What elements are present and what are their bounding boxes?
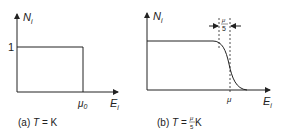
panel-a-caption: (a) T = K — [18, 117, 58, 128]
svg-text:μ: μ — [189, 115, 194, 121]
panel-b-fermi-curve — [147, 41, 247, 90]
panel-b-caption: (b) T = μ 5 K — [157, 115, 202, 130]
panel-b-x-label: Ei — [263, 95, 272, 109]
panel-b-width-label: μ 5 — [221, 17, 228, 32]
svg-text:μ: μ — [221, 17, 226, 23]
panel-a-x-label: Ei — [110, 97, 119, 111]
panel-b-y-label: Ni — [153, 10, 163, 24]
diagram-canvas: Ni 1 μ0 Ei (a) T = K μ 5 Ni μ Ei (b) T =… — [0, 0, 285, 137]
panel-a-y-tick-1: 1 — [8, 41, 14, 53]
panel-a: Ni 1 μ0 Ei (a) T = K — [8, 11, 119, 128]
svg-text:5: 5 — [222, 25, 226, 32]
svg-text:5: 5 — [190, 124, 194, 130]
svg-text:(b) T =: (b) T = — [157, 117, 187, 128]
panel-b-x-tick-mu: μ — [226, 95, 232, 104]
panel-a-y-label: Ni — [23, 11, 33, 25]
panel-b: μ 5 Ni μ Ei (b) T = μ 5 K — [147, 10, 272, 130]
panel-a-step-curve — [17, 47, 83, 92]
svg-text:K: K — [195, 117, 202, 128]
panel-a-x-tick-mu0: μ0 — [77, 98, 87, 110]
